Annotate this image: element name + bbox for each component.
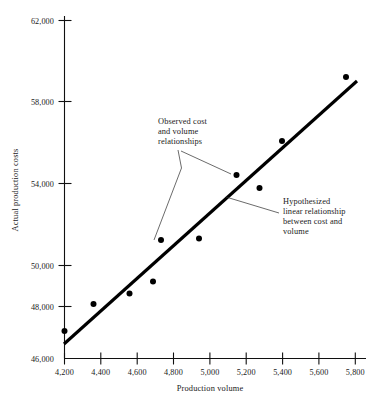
y-tick-label: 62,000 (31, 17, 54, 26)
data-point (196, 236, 202, 242)
annotation-observed-leader-right (181, 151, 231, 174)
data-point (158, 237, 164, 243)
x-tick-label: 4,600 (128, 368, 147, 377)
annotation-observed-line-3: relationships (158, 137, 202, 146)
x-axis-tick-labels: 4,200 4,400 4,600 4,800 5,000 5,200 5,40… (55, 368, 365, 377)
data-point (62, 328, 68, 334)
annotation-hypothesized-leader (226, 197, 279, 213)
y-axis-tick-labels: 62,000 58,000 54,000 50,000 48,000 46,00… (31, 17, 54, 364)
x-tick-label: 5,600 (309, 368, 328, 377)
data-point (150, 279, 156, 285)
x-tick-label: 5,800 (346, 368, 365, 377)
axes-group (64, 16, 366, 359)
y-tick-label: 54,000 (31, 180, 54, 189)
annotation-hypothesized-line-4: volume (283, 227, 309, 236)
annotation-observed-line-1: Observed cost (158, 117, 208, 126)
data-point (127, 291, 133, 297)
annotation-hypothesized: Hypothesized linear relationship between… (226, 197, 346, 236)
data-point (234, 172, 240, 178)
x-tick-label: 5,000 (200, 368, 219, 377)
scatter-plot-svg: 62,000 58,000 54,000 50,000 48,000 46,00… (0, 0, 375, 398)
x-tick-label: 5,200 (237, 368, 256, 377)
x-tick-label: 4,200 (55, 368, 74, 377)
annotation-observed-leader-left (154, 150, 182, 240)
data-point (343, 74, 349, 80)
x-tick-label: 5,400 (273, 368, 292, 377)
data-point (91, 301, 97, 307)
annotation-hypothesized-line-1: Hypothesized (283, 197, 331, 206)
y-tick-label: 58,000 (31, 98, 54, 107)
data-point (257, 185, 263, 191)
annotation-observed: Observed cost and volume relationships (154, 117, 231, 240)
y-axis-title: Actual production costs (11, 149, 20, 232)
data-point (279, 138, 285, 144)
annotation-observed-line-2: and volume (158, 127, 198, 136)
y-tick-label: 48,000 (31, 303, 54, 312)
y-tick-label: 46,000 (31, 355, 54, 364)
annotation-hypothesized-line-3: between cost and (283, 217, 343, 226)
y-tick-label: 50,000 (31, 262, 54, 271)
x-tick-label: 4,800 (164, 368, 183, 377)
x-axis-title: Production volume (177, 384, 244, 393)
annotation-hypothesized-line-2: linear relationship (283, 207, 346, 216)
chart-container: 62,000 58,000 54,000 50,000 48,000 46,00… (0, 0, 375, 398)
x-tick-label: 4,400 (91, 368, 110, 377)
